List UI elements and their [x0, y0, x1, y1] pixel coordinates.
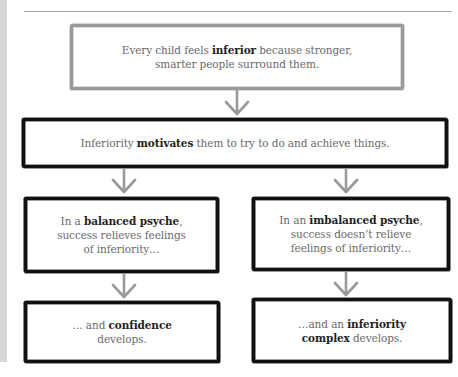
text-regular: because stronger, [256, 44, 352, 56]
node-2-line-1: Inferiority motivates them to try to do … [80, 136, 389, 150]
text-regular: , [179, 215, 182, 227]
node-5-line-1: … and confidence [72, 318, 172, 332]
node-imbalanced-psyche: In an imbalanced psyche, success doesn’t… [252, 197, 450, 271]
node-balanced-psyche: In a balanced psyche, success relieves f… [24, 197, 219, 273]
text-regular: …and an [298, 318, 347, 330]
text-regular: … and [72, 319, 108, 331]
node-6-line-2: complex develops. [298, 331, 406, 345]
text-bold-complex: complex [302, 332, 350, 344]
node-1-line-2: smarter people surround them. [122, 57, 352, 71]
node-confidence-develops: … and confidence develops. [24, 301, 220, 363]
text-regular: develops. [350, 332, 403, 344]
down-arrow-icon [223, 90, 251, 116]
node-4-line-1: In an imbalanced psyche, [279, 213, 422, 227]
text-regular: In a [61, 215, 84, 227]
node-3-line-1: In a balanced psyche, [57, 214, 186, 228]
text-bold-inferior: inferior [212, 44, 256, 56]
text-bold-motivates: motivates [137, 137, 193, 149]
text-bold-balanced-psyche: balanced psyche [84, 215, 179, 227]
page-edge-strip [0, 0, 7, 362]
node-every-child-feels-inferior: Every child feels inferior because stron… [70, 24, 404, 90]
node-inferiority-complex-develops: …and an inferiority complex develops. [252, 298, 452, 363]
node-inferiority-motivates: Inferiority motivates them to try to do … [22, 118, 448, 168]
text-regular: them to try to do and achieve things. [193, 137, 389, 149]
node-4-line-3: feelings of inferiority… [279, 241, 422, 255]
text-bold-imbalanced-psyche: imbalanced psyche [309, 214, 419, 226]
down-arrow-icon [110, 273, 138, 299]
node-3-line-3: of inferiority… [57, 242, 186, 256]
down-arrow-icon [110, 168, 138, 194]
text-regular: , [419, 214, 422, 226]
node-3-line-2: success relieves feelings [57, 228, 186, 242]
node-4-line-2: success doesn’t relieve [279, 227, 422, 241]
node-6-line-1: …and an inferiority [298, 317, 406, 331]
down-arrow-icon [332, 271, 360, 297]
down-arrow-icon [332, 168, 360, 194]
node-5-line-2: develops. [72, 332, 172, 346]
text-regular: Every child feels [122, 44, 212, 56]
text-bold-inferiority: inferiority [347, 318, 406, 330]
top-rule-divider [24, 11, 452, 12]
node-1-line-1: Every child feels inferior because stron… [122, 43, 352, 57]
text-regular: Inferiority [80, 137, 136, 149]
text-regular: In an [279, 214, 309, 226]
text-bold-confidence: confidence [109, 319, 172, 331]
